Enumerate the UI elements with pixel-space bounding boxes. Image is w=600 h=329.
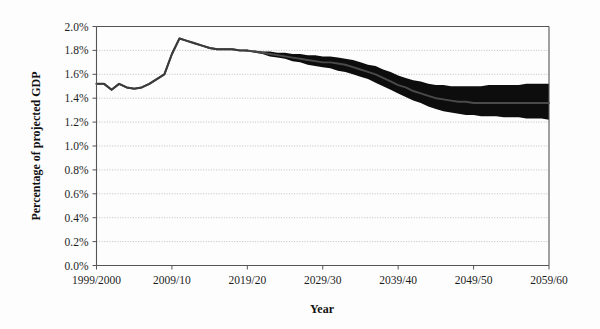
y-axis-ticks: 0.0%0.2%0.4%0.6%0.8%1.0%1.2%1.4%1.6%1.8%…	[65, 21, 97, 272]
y-tick-label: 1.2%	[65, 116, 89, 128]
y-tick-label: 1.6%	[65, 68, 89, 80]
y-tick-label: 0.6%	[65, 188, 89, 200]
y-tick-label: 1.4%	[65, 92, 89, 104]
x-tick-label: 2029/30	[304, 274, 342, 286]
y-tick-label: 0.0%	[65, 260, 89, 272]
chart-page: 0.0%0.2%0.4%0.6%0.8%1.0%1.2%1.4%1.6%1.8%…	[0, 0, 600, 329]
y-tick-label: 1.0%	[65, 140, 89, 152]
y-tick-label: 0.2%	[65, 236, 89, 248]
x-tick-label: 2039/40	[379, 274, 417, 286]
x-axis-ticks: 1999/20002009/102019/202029/302039/40204…	[72, 266, 568, 286]
x-tick-label: 2059/60	[530, 274, 568, 286]
x-tick-label: 1999/2000	[72, 274, 121, 286]
x-tick-label: 2049/50	[455, 274, 493, 286]
historical-line	[97, 38, 248, 89]
y-tick-label: 0.4%	[65, 212, 89, 224]
y-tick-label: 0.8%	[65, 164, 89, 176]
x-axis-title: Year	[310, 302, 335, 316]
x-tick-label: 2019/20	[228, 274, 266, 286]
y-tick-label: 2.0%	[65, 21, 89, 33]
x-tick-label: 2009/10	[153, 274, 191, 286]
y-axis-title: Percentage of projected GDP	[29, 71, 43, 220]
fan-chart: 0.0%0.2%0.4%0.6%0.8%1.0%1.2%1.4%1.6%1.8%…	[0, 0, 600, 329]
y-tick-label: 1.8%	[65, 44, 89, 56]
